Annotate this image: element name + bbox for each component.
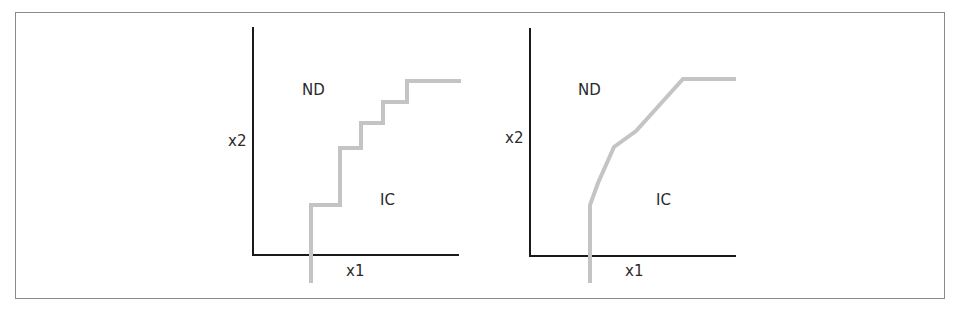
left-region-nd-label: ND [302, 81, 325, 99]
figure-svg: ND IC x2 x1 ND IC x2 x1 [0, 0, 956, 312]
left-staircase-curve [311, 81, 461, 283]
left-x-axis-label: x1 [346, 262, 364, 280]
right-piecewise-curve [590, 79, 736, 283]
right-panel: ND IC x2 x1 [505, 28, 736, 283]
left-y-axis-label: x2 [228, 132, 246, 150]
right-region-nd-label: ND [578, 81, 601, 99]
left-region-ic-label: IC [380, 191, 395, 209]
right-x-axis-label: x1 [625, 262, 643, 280]
right-region-ic-label: IC [656, 191, 671, 209]
left-panel: ND IC x2 x1 [228, 27, 461, 283]
right-y-axis-label: x2 [505, 129, 523, 147]
